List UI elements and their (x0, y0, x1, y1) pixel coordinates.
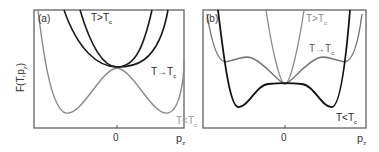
panel-b-curve-t-to-tc (207, 14, 362, 84)
panel-a-xtick-label: 0 (113, 132, 119, 143)
panel-a: (a) T>Tc T→Tc T<Tc 0 pz F(T,pz) (15, 10, 197, 146)
panel-b-label-t-greater-tc: T>Tc (306, 13, 327, 26)
panel-a-xlabel: pz (176, 132, 185, 146)
panel-a-label: (a) (38, 13, 50, 24)
panel-a-curve-t-less-tc (38, 10, 184, 113)
panel-b-label-t-to-tc: T→Tc (309, 43, 334, 56)
panel-b-xlabel: pz (357, 132, 366, 146)
panel-b: (b) T>Tc T→Tc T<Tc 0 pz (203, 10, 366, 146)
panel-a-label-t-to-tc: T→Tc (151, 66, 176, 79)
panel-b-label: (b) (206, 13, 218, 24)
panel-a-label-t-greater-tc: T>Tc (91, 12, 112, 25)
panel-a-ylabel: F(T,pz) (15, 63, 28, 92)
panel-a-label-t-less-tc: T<Tc (176, 115, 197, 128)
panel-b-label-t-less-tc: T<Tc (336, 112, 357, 125)
panel-b-xtick-label: 0 (281, 132, 287, 143)
figure: (a) T>Tc T→Tc T<Tc 0 pz F(T,pz) (b) T>Tc… (0, 0, 379, 152)
panel-b-frame (203, 10, 366, 128)
